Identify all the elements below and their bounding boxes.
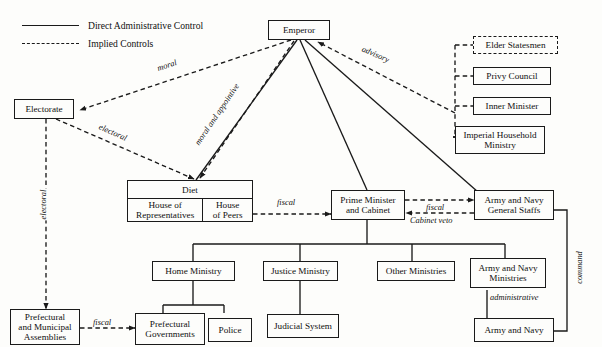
node-other-ministries[interactable]: Other Ministries bbox=[377, 261, 455, 281]
edge-emperor-general-staffs bbox=[305, 40, 478, 192]
node-inner-minister[interactable]: Inner Minister bbox=[473, 97, 551, 115]
node-justice-ministry[interactable]: Justice Ministry bbox=[263, 261, 338, 281]
node-prefectural-governments[interactable]: Prefectural Governments bbox=[135, 313, 205, 345]
node-army-and-navy[interactable]: Army and Navy bbox=[474, 318, 554, 342]
edge-label-command: command bbox=[575, 250, 584, 285]
node-home-ministry[interactable]: Home Ministry bbox=[152, 261, 235, 281]
node-diet[interactable]: Diet House of Representatives House of P… bbox=[127, 180, 253, 222]
edge-label-administrative: administrative bbox=[489, 293, 539, 302]
node-house-of-peers[interactable]: House of Peers bbox=[203, 199, 252, 221]
node-emperor[interactable]: Emperor bbox=[268, 20, 330, 40]
edge-label-fiscal-diet: fiscal bbox=[276, 198, 296, 207]
edge-electorate-diet-electoral bbox=[56, 119, 194, 179]
edge-label-fiscal-staffs: fiscal bbox=[425, 203, 445, 212]
node-judicial-system[interactable]: Judicial System bbox=[267, 314, 339, 338]
edge-label-cabinet-veto: Cabinet veto bbox=[409, 216, 454, 225]
node-police[interactable]: Police bbox=[208, 318, 252, 342]
node-prefectural-and-municipal-assemblies[interactable]: Prefectural and Municipal Assemblies bbox=[10, 309, 80, 345]
node-army-navy-general-staffs[interactable]: Army and Navy General Staffs bbox=[474, 190, 554, 220]
node-imperial-household-ministry[interactable]: Imperial Household Ministry bbox=[455, 126, 545, 154]
node-army-navy-ministries[interactable]: Army and Navy Ministries bbox=[470, 258, 546, 288]
edge-advisory-emperor bbox=[318, 42, 455, 113]
edge-emperor-electorate-moral bbox=[80, 40, 291, 110]
organizational-chart: Direct Administrative Control Implied Co… bbox=[0, 0, 602, 347]
edge-label-electoral-vertical: electoral bbox=[39, 189, 48, 221]
edge-label-fiscal-prefectural: fiscal bbox=[92, 318, 112, 327]
node-house-of-representatives[interactable]: House of Representatives bbox=[128, 199, 203, 221]
node-privy-council[interactable]: Privy Council bbox=[473, 67, 551, 85]
node-electorate[interactable]: Electorate bbox=[14, 99, 74, 119]
diet-title: Diet bbox=[128, 181, 252, 199]
node-elder-statesmen[interactable]: Elder Statesmen bbox=[473, 36, 558, 54]
node-prime-minister-and-cabinet[interactable]: Prime Minister and Cabinet bbox=[331, 190, 405, 220]
edge-emperor-diet bbox=[196, 40, 297, 180]
